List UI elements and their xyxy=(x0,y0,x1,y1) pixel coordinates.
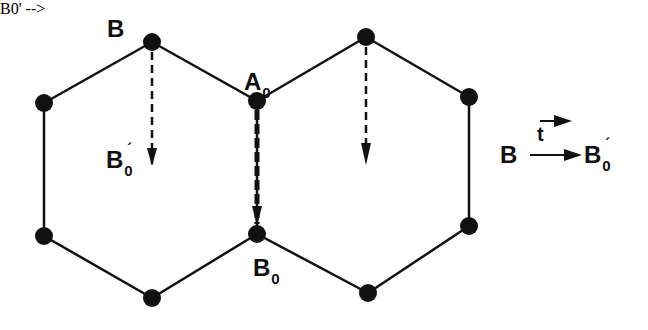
legend-vector-t: t xyxy=(537,124,544,144)
right-hexagon xyxy=(257,37,469,293)
label-B0prime-main: B xyxy=(106,146,123,173)
atom-right-bottom xyxy=(460,217,478,235)
atom-left-bottom xyxy=(35,227,53,245)
label-A0: A0 xyxy=(244,70,271,94)
atom-bottom-right xyxy=(359,284,377,302)
atom-B0 xyxy=(248,225,266,243)
legend-to-prime: ´ xyxy=(605,137,610,153)
label-B0prime-prime: ´ xyxy=(127,142,132,158)
legend-to-main: B xyxy=(584,141,601,168)
hexagon-lattice-diagram xyxy=(0,0,648,330)
label-B0-prime: B0 ´ xyxy=(106,148,133,172)
left-hexagon xyxy=(44,42,257,298)
label-A0-sub: 0 xyxy=(262,84,270,101)
legend-to-sub: 0 xyxy=(602,157,610,174)
atom-top-right xyxy=(357,28,375,46)
atom-right-top xyxy=(460,88,478,106)
atom-B xyxy=(143,33,161,51)
label-A0-main: A xyxy=(244,68,261,95)
label-B: B xyxy=(107,17,124,41)
label-B-text: B xyxy=(107,15,124,42)
label-B0prime-sub: 0 xyxy=(124,162,132,179)
atom-left-top xyxy=(35,94,53,112)
label-B0-main: B xyxy=(253,254,270,281)
legend-from-text: B xyxy=(500,141,517,168)
label-B0: B0 xyxy=(253,256,280,280)
legend-from: B xyxy=(500,143,517,167)
atom-bottom-left xyxy=(143,289,161,307)
legend-vector-text: t xyxy=(537,123,544,145)
label-B0-sub: 0 xyxy=(271,270,279,287)
legend-to: B0 ´ xyxy=(584,143,611,167)
